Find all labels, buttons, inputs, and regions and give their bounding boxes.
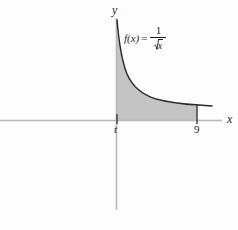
x-tick-label-t: t — [114, 124, 117, 135]
x-tick-label-9: 9 — [194, 124, 200, 135]
function-equation-label: f(x) = 1 x — [124, 25, 166, 51]
plot-canvas — [0, 0, 238, 230]
equals-sign: = — [141, 33, 147, 44]
y-axis-label: y — [112, 4, 117, 16]
radical-sign-icon — [154, 39, 159, 50]
fraction-numerator: 1 — [154, 25, 164, 37]
fraction: 1 x — [150, 25, 166, 51]
square-root: x — [154, 39, 163, 51]
function-name: f(x) — [124, 33, 139, 44]
fraction-denominator: x — [152, 38, 165, 51]
x-axis-label: x — [227, 113, 232, 125]
figure-container: y x t 9 f(x) = 1 x — [0, 0, 238, 230]
